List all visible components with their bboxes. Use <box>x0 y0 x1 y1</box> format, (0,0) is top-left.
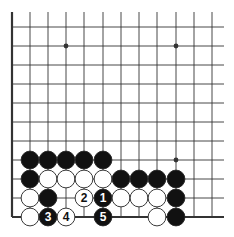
star-point <box>174 158 179 163</box>
move-number: 5 <box>100 210 107 224</box>
black-stone <box>148 170 166 188</box>
black-stone <box>94 151 112 169</box>
white-stone: 4 <box>57 208 75 226</box>
white-stone <box>21 208 39 226</box>
white-stone <box>21 189 39 207</box>
black-stone <box>57 151 75 169</box>
black-stone <box>39 151 57 169</box>
black-stone <box>167 208 185 226</box>
move-number: 2 <box>81 191 88 205</box>
move-number: 1 <box>100 191 107 205</box>
star-point <box>174 44 179 49</box>
black-stone <box>112 170 130 188</box>
white-stone <box>148 208 166 226</box>
white-stone <box>75 170 93 188</box>
black-stone: 1 <box>94 189 112 207</box>
white-stone <box>39 170 57 188</box>
black-stone <box>39 189 57 207</box>
white-stone <box>112 189 130 207</box>
white-stone <box>130 189 148 207</box>
black-stone: 3 <box>39 208 57 226</box>
move-number: 4 <box>63 210 70 224</box>
black-stone <box>75 151 93 169</box>
white-stone: 2 <box>75 189 93 207</box>
white-stone <box>57 170 75 188</box>
black-stone: 5 <box>94 208 112 226</box>
black-stone <box>167 170 185 188</box>
white-stone <box>148 189 166 207</box>
move-number: 3 <box>45 210 52 224</box>
black-stone <box>167 189 185 207</box>
black-stone <box>21 170 39 188</box>
star-point <box>64 44 69 49</box>
black-stone <box>130 170 148 188</box>
go-board: 21345 <box>0 0 234 237</box>
black-stone <box>21 151 39 169</box>
white-stone <box>94 170 112 188</box>
